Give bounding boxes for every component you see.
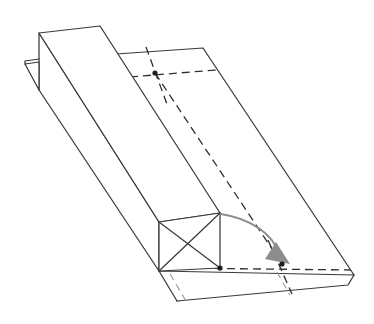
technical-illustration-figure bbox=[0, 0, 374, 324]
vertex-dot-block-base-front bbox=[217, 265, 222, 270]
vertex-dot-ramp-upper-target bbox=[152, 70, 157, 75]
ramp-lower-lip-face bbox=[159, 271, 354, 301]
beam-rear-notch bbox=[25, 62, 39, 90]
figure-canvas bbox=[0, 0, 374, 324]
vertex-dot-slide-destination bbox=[279, 261, 284, 266]
